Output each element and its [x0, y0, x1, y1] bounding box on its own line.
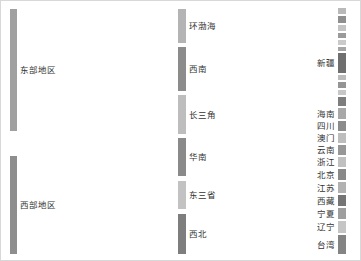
- sankey-link[interactable]: [186, 133, 338, 159]
- sankey-node[interactable]: [178, 138, 186, 176]
- sankey-node[interactable]: [338, 25, 346, 31]
- sankey-node[interactable]: [178, 47, 186, 91]
- node-label-xz: 西藏: [317, 196, 335, 206]
- sankey-node[interactable]: [338, 195, 346, 206]
- sankey-node[interactable]: [338, 208, 346, 219]
- sankey-link[interactable]: [186, 195, 338, 254]
- sankey-link[interactable]: [186, 159, 338, 247]
- sankey-node[interactable]: [10, 156, 17, 254]
- sankey-link[interactable]: [186, 28, 338, 250]
- sankey-link[interactable]: [186, 53, 338, 234]
- sankey-node[interactable]: [338, 47, 346, 51]
- node-label-ne3: 东三省: [189, 190, 216, 200]
- sankey-node[interactable]: [338, 145, 346, 155]
- sankey-node[interactable]: [338, 133, 346, 143]
- node-label-south: 华南: [189, 152, 207, 162]
- node-label-sw: 西南: [189, 64, 207, 74]
- sankey-link[interactable]: [186, 33, 338, 89]
- sankey-node[interactable]: [338, 182, 346, 193]
- sankey-link[interactable]: [186, 16, 338, 123]
- sankey-link[interactable]: [186, 21, 338, 180]
- sankey-link[interactable]: [186, 90, 338, 186]
- node-label-bohai: 环渤海: [189, 21, 216, 31]
- sankey-node[interactable]: [338, 221, 346, 233]
- sankey-node[interactable]: [178, 95, 186, 134]
- sankey-node[interactable]: [10, 9, 17, 131]
- sankey-node[interactable]: [338, 97, 346, 106]
- sankey-node[interactable]: [338, 75, 346, 80]
- sankey-node[interactable]: [178, 181, 186, 209]
- sankey-node[interactable]: [338, 40, 346, 45]
- node-label-mo: 澳门: [317, 133, 335, 143]
- sankey-links-group: [17, 8, 338, 254]
- node-label-yrd: 长三角: [189, 110, 216, 120]
- sankey-link[interactable]: [186, 57, 338, 155]
- sankey-node[interactable]: [338, 108, 346, 119]
- sankey-nodes-group: [10, 8, 346, 254]
- node-label-bj: 北京: [317, 170, 335, 180]
- sankey-link[interactable]: [17, 120, 178, 192]
- sankey-node[interactable]: [338, 90, 346, 95]
- sankey-node[interactable]: [338, 33, 346, 38]
- sankey-node[interactable]: [338, 235, 346, 254]
- node-label-nx: 宁夏: [317, 209, 335, 219]
- sankey-diagram: 东部地区西部地区环渤海西南长三角华南东三省西北新疆海南四川澳门云南浙江北京江苏西…: [1, 1, 360, 260]
- sankey-node[interactable]: [338, 8, 346, 14]
- sankey-node[interactable]: [178, 9, 186, 43]
- sankey-chart-container: 东部地区西部地区环渤海西南长三角华南东三省西北新疆海南四川澳门云南浙江北京江苏西…: [0, 0, 361, 261]
- sankey-link[interactable]: [186, 95, 338, 167]
- sankey-node[interactable]: [338, 82, 346, 88]
- sankey-node[interactable]: [338, 53, 346, 73]
- sankey-node[interactable]: [178, 214, 186, 254]
- node-label-xj: 新疆: [317, 58, 335, 68]
- sankey-labels-group: 东部地区西部地区环渤海西南长三角华南东三省西北新疆海南四川澳门云南浙江北京江苏西…: [20, 21, 335, 250]
- node-label-hn: 海南: [317, 109, 335, 119]
- node-label-ln: 辽宁: [317, 222, 335, 232]
- sankey-node[interactable]: [338, 157, 346, 167]
- node-label-zj: 浙江: [317, 157, 335, 167]
- node-label-js: 江苏: [317, 183, 335, 193]
- sankey-link[interactable]: [186, 75, 338, 128]
- node-label-east: 东部地区: [20, 65, 56, 75]
- sankey-node[interactable]: [338, 16, 346, 23]
- node-label-tw: 台湾: [317, 240, 335, 250]
- sankey-link[interactable]: [186, 8, 338, 15]
- node-label-sc: 四川: [317, 121, 335, 131]
- sankey-link[interactable]: [17, 43, 178, 134]
- sankey-link[interactable]: [186, 8, 338, 208]
- sankey-link[interactable]: [17, 214, 178, 254]
- sankey-node[interactable]: [338, 169, 346, 180]
- node-label-yn: 云南: [317, 145, 335, 155]
- sankey-link[interactable]: [186, 78, 338, 88]
- node-label-west: 西部地区: [20, 200, 56, 210]
- sankey-link[interactable]: [17, 82, 178, 176]
- sankey-link[interactable]: [186, 32, 338, 232]
- sankey-link[interactable]: [186, 208, 338, 245]
- sankey-link[interactable]: [186, 67, 338, 206]
- sankey-node[interactable]: [338, 121, 346, 131]
- node-label-nw: 西北: [189, 229, 207, 239]
- sankey-link[interactable]: [17, 9, 178, 43]
